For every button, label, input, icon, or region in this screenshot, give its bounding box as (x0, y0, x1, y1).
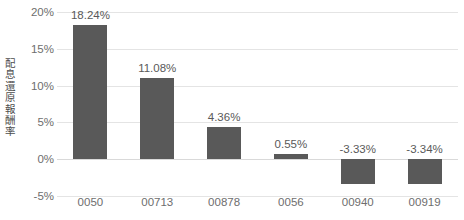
bar[interactable] (140, 78, 174, 160)
gridline (57, 12, 458, 13)
x-axis-category-label: 0050 (78, 196, 104, 208)
y-axis-tick-label: 0% (12, 153, 54, 165)
bar-chart: 配息還原報酬率 20%15%10%5%0%-5% 18.24%005011.08… (0, 0, 464, 220)
plot-area: 18.24%005011.08%007134.36%008780.55%0056… (57, 0, 458, 220)
gridline (57, 49, 458, 50)
bar[interactable] (274, 154, 308, 159)
bar-data-label: 0.55% (275, 138, 308, 150)
bar[interactable] (207, 127, 241, 159)
bar-data-label: 4.36% (208, 111, 241, 123)
y-axis-tick-label: 10% (12, 80, 54, 92)
y-axis-tick-label: -5% (12, 190, 54, 202)
bar-data-label: 11.08% (138, 62, 176, 74)
gridline (57, 86, 458, 87)
gridline (57, 196, 458, 197)
y-axis-tick-label: 5% (12, 116, 54, 128)
y-axis-tick-label: 15% (12, 43, 54, 55)
x-axis-category-label: 0056 (278, 196, 304, 208)
zero-baseline (57, 159, 458, 160)
x-axis-category-label: 00940 (342, 196, 374, 208)
y-axis-tick-label: 20% (12, 6, 54, 18)
bar[interactable] (341, 159, 375, 184)
gridline (57, 122, 458, 123)
bar[interactable] (408, 159, 442, 184)
y-axis-tick-labels: 20%15%10%5%0%-5% (10, 0, 54, 220)
x-axis-category-label: 00713 (141, 196, 173, 208)
x-axis-category-label: 00878 (208, 196, 240, 208)
x-axis-category-label: 00919 (409, 196, 441, 208)
bar-data-label: -3.34% (406, 143, 442, 155)
bar-data-label: -3.33% (340, 143, 376, 155)
bar[interactable] (73, 25, 107, 159)
bar-data-label: 18.24% (71, 9, 110, 21)
